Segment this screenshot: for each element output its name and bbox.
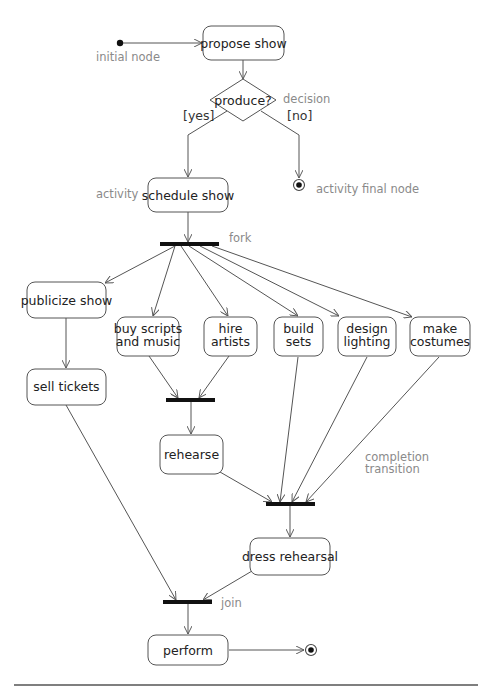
guard-no: [no]	[287, 108, 312, 123]
edge-fork-to-make-costumes	[212, 246, 412, 317]
edge-sell-to-join3	[66, 405, 176, 600]
svg-text:costumes: costumes	[410, 334, 470, 349]
annotation-completion-transition-line2: transition	[365, 462, 420, 476]
activity-final-node-bottom	[306, 645, 317, 656]
edge-lighting-to-join2	[292, 357, 367, 502]
initial-node	[117, 40, 123, 46]
annotation-activity-final-node: activity final node	[316, 182, 419, 196]
activity-publicize-show: publicize show	[21, 282, 113, 318]
svg-text:artists: artists	[211, 334, 250, 349]
edge-fork-to-buy-scripts	[153, 246, 175, 316]
edge-rehearse-to-join2	[220, 472, 272, 502]
svg-text:dress rehearsal: dress rehearsal	[242, 549, 338, 564]
activity-make-costumes: make costumes	[410, 317, 470, 356]
svg-text:perform: perform	[163, 643, 213, 658]
edge-buy-to-join1	[149, 356, 178, 398]
svg-text:sets: sets	[286, 334, 312, 349]
edge-fork-to-build-sets	[189, 246, 298, 316]
activity-schedule-show: schedule show	[142, 178, 234, 212]
edge-costumes-to-join2	[306, 357, 439, 502]
activity-design-lighting: design lighting	[338, 317, 396, 356]
activity-perform: perform	[148, 635, 228, 665]
activity-dress-rehearsal: dress rehearsal	[242, 538, 338, 575]
decision-label: produce?	[214, 93, 272, 108]
activity-rehearse: rehearse	[160, 435, 223, 474]
annotation-fork: fork	[229, 231, 252, 245]
annotation-decision: decision	[283, 92, 330, 106]
activity-final-node-top	[294, 180, 305, 191]
svg-text:schedule show: schedule show	[142, 188, 234, 203]
svg-text:sell tickets: sell tickets	[33, 379, 99, 394]
svg-text:propose show: propose show	[200, 36, 287, 51]
guard-yes: [yes]	[183, 108, 214, 123]
activity-buy-scripts-and-music: buy scripts and music	[114, 317, 183, 356]
activity-sell-tickets: sell tickets	[27, 369, 106, 405]
annotation-activity: activity	[96, 187, 139, 201]
annotation-join: join	[220, 596, 242, 610]
svg-text:publicize show: publicize show	[21, 293, 113, 308]
annotation-initial-node: initial node	[96, 50, 160, 64]
activity-propose-show: propose show	[200, 26, 287, 60]
svg-text:and music: and music	[116, 334, 181, 349]
edge-fork-to-publicize	[105, 246, 175, 283]
activity-hire-artists: hire artists	[204, 317, 257, 356]
edge-hire-to-join1	[199, 356, 229, 398]
svg-text:lighting: lighting	[343, 334, 390, 349]
activity-build-sets: build sets	[274, 317, 323, 356]
edge-build-to-join2	[280, 357, 298, 502]
svg-text:rehearse: rehearse	[164, 447, 219, 462]
activity-diagram: produce? propose show schedule show publ…	[0, 0, 497, 692]
